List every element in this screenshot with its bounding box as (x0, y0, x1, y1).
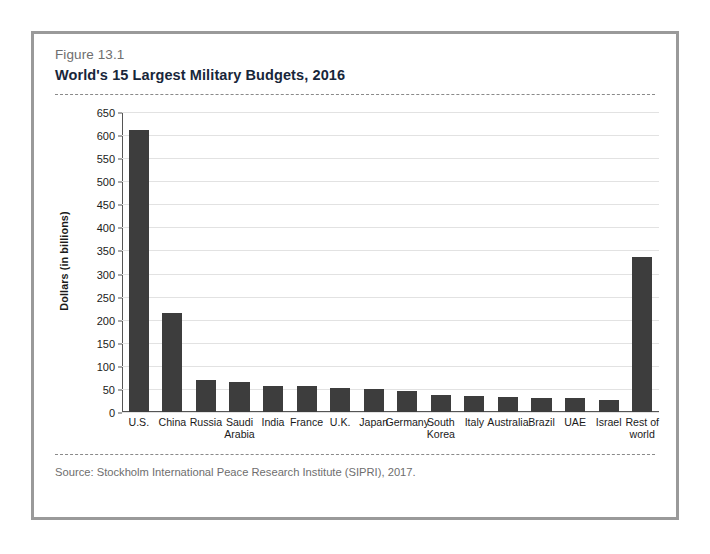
bar (397, 391, 417, 412)
y-axis-tick-label: 100 (97, 361, 115, 373)
bar (263, 386, 283, 412)
y-axis-tick-label: 350 (97, 245, 115, 257)
bar (129, 130, 149, 412)
y-axis-tick-label: 50 (103, 384, 115, 396)
y-axis-title: Dollars (in billions) (53, 106, 75, 416)
source-note: Source: Stockholm International Peace Re… (55, 466, 416, 478)
gridline: 0 (122, 412, 659, 413)
y-axis-title-label: Dollars (in billions) (58, 211, 70, 310)
bar (632, 257, 652, 412)
figure-title: World's 15 Largest Military Budgets, 201… (55, 67, 345, 83)
divider-top (55, 94, 655, 95)
y-axis-tick-label: 150 (97, 338, 115, 350)
plot-area: 050100150200250300350400450500550600650 … (122, 112, 659, 412)
bar (431, 395, 451, 412)
y-axis-tick-label: 450 (97, 199, 115, 211)
bar (599, 400, 619, 412)
x-axis-tick-label: Rest of world (618, 416, 666, 441)
bar (531, 398, 551, 412)
bar (364, 389, 384, 412)
bar (565, 398, 585, 412)
bar-series (122, 112, 659, 412)
y-axis-tick-label: 300 (97, 269, 115, 281)
bar (464, 396, 484, 412)
y-axis-tick-label: 400 (97, 222, 115, 234)
bar-chart: Dollars (in billions) 050100150200250300… (55, 106, 659, 446)
y-axis-tick-mark (118, 413, 122, 414)
bar (196, 380, 216, 412)
y-axis-tick-label: 550 (97, 153, 115, 165)
divider-bottom (55, 454, 655, 455)
y-axis-tick-label: 250 (97, 292, 115, 304)
bar (330, 388, 350, 412)
figure-card: Figure 13.1 World's 15 Largest Military … (31, 31, 679, 520)
bar (297, 386, 317, 412)
bar (498, 397, 518, 412)
bar (229, 382, 249, 412)
y-axis-tick-label: 200 (97, 315, 115, 327)
figure-number: Figure 13.1 (55, 47, 124, 62)
y-axis-tick-label: 500 (97, 176, 115, 188)
bar (162, 313, 182, 412)
y-axis-tick-label: 650 (97, 107, 115, 119)
y-axis-tick-label: 600 (97, 130, 115, 142)
